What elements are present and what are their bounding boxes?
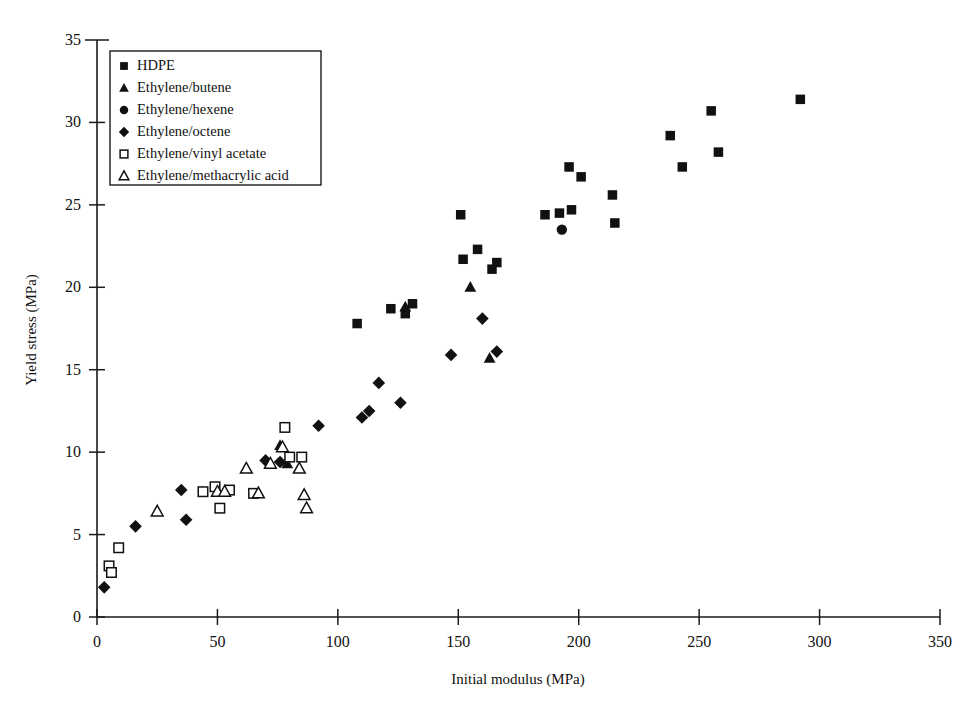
y-tick-label: 15 [65,361,81,378]
data-point-filled-square [564,162,574,172]
legend-label: Ethylene/methacrylic acid [137,167,290,183]
data-point-filled-diamond [175,484,188,497]
data-point-filled-square [473,245,483,255]
legend-label: HDPE [137,57,175,73]
data-point-filled-square [714,147,724,157]
legend-item-ethylene-vinyl-acetate[interactable]: Ethylene/vinyl acetate [120,145,266,161]
data-point-open-triangle [240,462,252,473]
data-point-filled-square [408,299,418,309]
legend-label: Ethylene/vinyl acetate [137,145,266,161]
data-point-filled-diamond [476,312,489,325]
x-tick-label: 350 [928,633,952,650]
legend-item-ethylene-methacrylic-acid[interactable]: Ethylene/methacrylic acid [119,167,289,183]
data-point-open-square [280,423,290,433]
series-ethylene-vinyl-acetate [104,423,306,578]
data-point-open-square [297,452,307,462]
data-point-open-triangle [151,505,163,516]
data-point-filled-square [492,258,502,268]
x-tick-label: 200 [567,633,591,650]
data-point-filled-diamond [445,349,458,362]
data-point-open-square [215,503,225,513]
x-tick-label: 150 [446,633,470,650]
legend-label: Ethylene/hexene [137,101,234,117]
y-tick-label: 10 [65,443,81,460]
data-point-filled-diamond [312,419,325,432]
data-point-open-triangle [293,462,305,473]
y-axis-title: Yield stress (MPa) [23,274,40,386]
data-point-filled-diamond [129,520,142,533]
data-point-filled-square [456,210,466,220]
data-point-filled-square [458,255,468,265]
data-point-filled-square [352,319,362,329]
legend-marker-filled-square [120,62,128,70]
data-point-open-triangle [301,502,313,513]
data-point-filled-square [665,131,675,141]
scatter-chart: 05101520253035 050100150200250300350 Ini… [0,0,980,706]
x-axis-title: Initial modulus (MPa) [451,671,584,688]
series-ethylene-hexene [557,224,567,234]
chart-legend: HDPEEthylene/buteneEthylene/hexeneEthyle… [110,51,321,185]
data-point-filled-square [610,218,620,228]
y-tick-label: 0 [73,608,81,625]
y-tick-label: 5 [73,526,81,543]
data-point-filled-square [386,304,396,314]
y-tick-label: 35 [65,31,81,48]
x-tick-label: 100 [326,633,350,650]
plot-canvas: 05101520253035 050100150200250300350 Ini… [0,0,980,706]
data-point-filled-diamond [394,396,407,409]
x-tick-label: 0 [93,633,101,650]
y-tick-label: 20 [65,278,81,295]
y-tick-label: 25 [65,196,81,213]
data-point-filled-square [608,190,618,200]
data-point-open-square [114,543,124,553]
data-point-filled-square [678,162,688,172]
data-point-open-square [285,452,295,462]
x-tick-label: 300 [808,633,832,650]
data-point-filled-diamond [373,377,386,390]
series-hdpe [352,95,805,329]
data-point-filled-square [706,106,716,116]
legend-label: Ethylene/butene [137,79,231,95]
x-tick-label: 250 [687,633,711,650]
data-point-filled-square [567,205,577,215]
y-tick-label: 30 [65,113,81,130]
data-point-open-square [107,568,117,578]
legend-marker-open-square [120,150,128,158]
data-point-open-triangle [298,489,310,500]
x-axis-ticks: 050100150200250300350 [93,609,952,650]
data-point-filled-square [555,208,565,218]
series-ethylene-butene [274,281,495,468]
legend-label: Ethylene/octene [137,123,230,139]
data-point-filled-square [796,95,806,105]
legend-item-ethylene-hexene[interactable]: Ethylene/hexene [120,101,234,117]
data-point-filled-triangle [464,281,476,292]
data-point-filled-diamond [491,345,504,358]
data-point-filled-circle [557,224,567,234]
y-axis-ticks: 05101520253035 [65,31,109,625]
data-point-open-square [198,487,208,497]
data-point-filled-diamond [180,513,193,526]
data-point-filled-square [576,172,586,182]
x-tick-label: 50 [209,633,225,650]
data-point-filled-square [540,210,550,220]
series-ethylene-methacrylic-acid [151,441,312,516]
legend-marker-filled-circle [120,106,129,115]
data-point-filled-diamond [98,581,111,594]
